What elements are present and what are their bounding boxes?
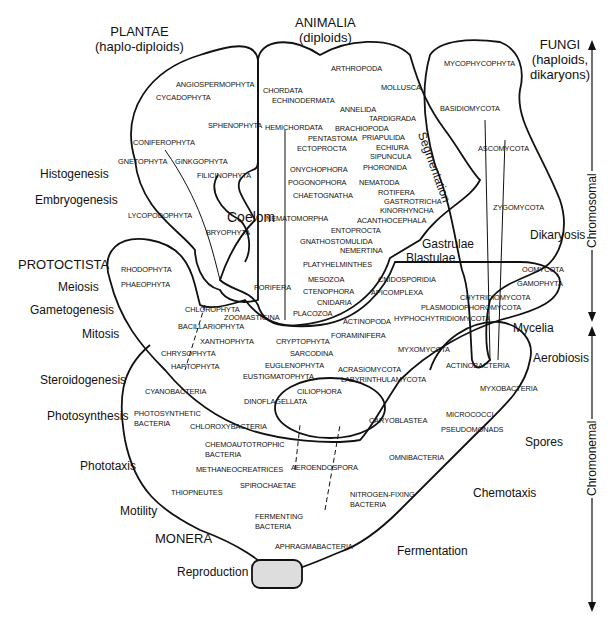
taxon-label: BACTERIA <box>255 523 291 530</box>
taxon-label: MICROCOCCI <box>446 411 493 418</box>
taxon-label: CNIDOSPORIDIA <box>378 276 436 283</box>
process-gametogenesis: Gametogenesis <box>30 304 114 316</box>
process-steroidogenesis: Steroidogenesis <box>40 374 126 386</box>
taxon-label: ACTINOBACTERIA <box>446 362 509 369</box>
taxon-label: ACTINOPODA <box>343 318 391 325</box>
taxon-label: CHRYSOPHYTA <box>161 350 215 357</box>
kingdom-protoctista: PROTOCTISTA <box>18 258 109 273</box>
taxon-label: AEROENDOSPORA <box>291 464 358 471</box>
process-embryogenesis: Embryogenesis <box>35 194 118 206</box>
taxon-label: OMNIBACTERIA <box>389 454 444 461</box>
taxon-label: KINORHYNCHA <box>380 207 434 214</box>
taxon-label: NEMERTINA <box>340 247 383 254</box>
taxon-label: APICOMPLEXA <box>371 289 423 296</box>
process-spores: Spores <box>525 436 563 448</box>
taxon-label: GASTROTRICHA <box>384 198 442 205</box>
taxon-label: NITROGEN-FIXING <box>350 491 415 498</box>
taxon-label: CNIDARIA <box>317 299 352 306</box>
process-fermentation: Fermentation <box>397 545 468 557</box>
taxon-label: CHLOROXYBACTERIA <box>190 423 267 430</box>
kingdom-monera: MONERA <box>155 532 212 547</box>
taxon-label: MYCOPHYCOPHYTA <box>444 60 515 67</box>
kingdom-ploidy: (haplo-diploids) <box>95 40 184 55</box>
taxon-label: BASIDIOMYCOTA <box>440 105 500 112</box>
process-reproduction: Reproduction <box>177 566 248 578</box>
kingdom-name: ANIMALIA <box>295 16 356 31</box>
kingdom-fungi: FUNGI (haploids, dikaryons) <box>530 38 590 83</box>
taxon-label: NEMATODA <box>359 179 399 186</box>
taxon-label: ECHINODERMATA <box>272 97 334 104</box>
taxon-label: CYCADOPHYTA <box>156 94 211 101</box>
process-phototaxis: Phototaxis <box>80 460 136 472</box>
taxon-label: MOLLUSCA <box>381 84 421 91</box>
taxon-label: OOMYCOTA <box>522 266 564 273</box>
kingdom-plantae: PLANTAE (haplo-diploids) <box>95 25 184 55</box>
taxon-label: METHANEOCREATRICES <box>196 466 283 473</box>
taxon-label: XANTHOPHYTA <box>200 338 254 345</box>
taxon-label: ZOOMASTIGINA <box>224 314 279 321</box>
kingdom-name: FUNGI <box>530 38 590 53</box>
process-photosynthesis: Photosynthesis <box>47 410 128 422</box>
taxon-label: PLASMODIOPHOROMYCOTA <box>421 304 521 311</box>
kingdom-ploidy: (diploids) <box>295 31 356 46</box>
taxon-label: SIPUNCULA <box>370 153 411 160</box>
taxon-label: DINOFLAGELLATA <box>244 398 307 405</box>
process-blastulae: Blastulae <box>406 252 455 264</box>
process-meiosis: Meiosis <box>58 281 99 293</box>
process-mycelia: Mycelia <box>513 322 554 334</box>
kingdom-ploidy: (haploids, <box>530 53 590 68</box>
taxon-label: GNATHOSTOMULIDA <box>300 238 373 245</box>
process-mitosis: Mitosis <box>82 328 119 340</box>
taxon-label: PRIAPULIDA <box>362 134 405 141</box>
taxon-label: PHOTOSYNTHETIC <box>134 410 201 417</box>
taxon-label: BRACHIOPODA <box>335 125 389 132</box>
process-aerobiosis: Aerobiosis <box>533 352 589 364</box>
process-histogenesis: Histogenesis <box>40 168 109 180</box>
kingdom-animalia: ANIMALIA (diploids) <box>295 16 356 46</box>
process-gastrulae: Gastrulae <box>422 238 474 250</box>
taxon-label: FERMENTING <box>255 513 303 520</box>
taxon-label: ECHIURA <box>376 144 409 151</box>
axis-label-chromosomal: Chromosomal <box>585 171 599 250</box>
taxon-label: SPIROCHAETAE <box>240 482 296 489</box>
kingdom-ploidy: dikaryons) <box>530 68 590 83</box>
process-motility: Motility <box>120 505 157 517</box>
process-dikaryosis: Dikaryosis <box>530 229 585 241</box>
taxon-label: LYCOPODOPHYTA <box>128 212 192 219</box>
taxon-label: GNETOPHYTA <box>118 158 167 165</box>
taxon-label: EUSTIGMATOPHYTA <box>243 373 314 380</box>
taxon-label: NEMATOMORPHA <box>266 215 328 222</box>
taxon-label: RHODOPHYTA <box>121 266 172 273</box>
taxon-label: CHEMOAUTOTROPHIC <box>205 441 285 448</box>
taxon-label: HYPHOCHYTRIDIOMYCOTA <box>394 315 490 322</box>
taxon-label: ARTHROPODA <box>331 65 382 72</box>
taxon-label: PENTASTOMA <box>308 135 357 142</box>
axis-label-chromonemal: Chromonemal <box>585 419 599 498</box>
taxon-label: CTENOPHORA <box>303 288 354 295</box>
taxon-label: BRYOPHYTA <box>206 229 250 236</box>
taxon-label: SPHENOPHYTA <box>208 122 262 129</box>
taxon-label: FORAMINIFERA <box>331 332 386 339</box>
taxon-label: PORIFERA <box>254 284 291 291</box>
taxon-label: MESOZOA <box>308 276 344 283</box>
taxon-label: CRYPTOPHYTA <box>276 338 330 345</box>
taxon-label: ASCOMYCOTA <box>478 145 529 152</box>
taxon-label: POGONOPHORA <box>288 179 346 186</box>
taxon-label: CHORDATA <box>263 87 303 94</box>
taxon-label: PLACOZOA <box>293 310 332 317</box>
taxon-label: SARCODINA <box>290 350 333 357</box>
taxon-label: MYXOMYCOTA <box>398 346 450 353</box>
taxon-label: ANNELIDA <box>340 106 376 113</box>
taxon-label: TARDIGRADA <box>369 115 416 122</box>
taxon-label: HAPTOPHYTA <box>171 363 219 370</box>
taxon-label: PSEUDOMONADS <box>441 426 503 433</box>
five-kingdom-diagram: PLANTAE (haplo-diploids) ANIMALIA (diplo… <box>0 0 616 621</box>
taxon-label: CARYOBLASTEA <box>369 417 427 424</box>
taxon-label: BACTERIA <box>205 451 241 458</box>
taxon-label: LABYRINTHULAMYCOTA <box>341 376 426 383</box>
taxon-label: GAMOPHYTA <box>517 280 563 287</box>
taxon-label: ENTOPROCTA <box>331 227 381 234</box>
taxon-label: FILICINOPHYTA <box>197 172 251 179</box>
taxon-label: APHRAGMABACTERIA <box>275 543 353 550</box>
taxon-label: CONIFEROPHYTA <box>133 139 195 146</box>
